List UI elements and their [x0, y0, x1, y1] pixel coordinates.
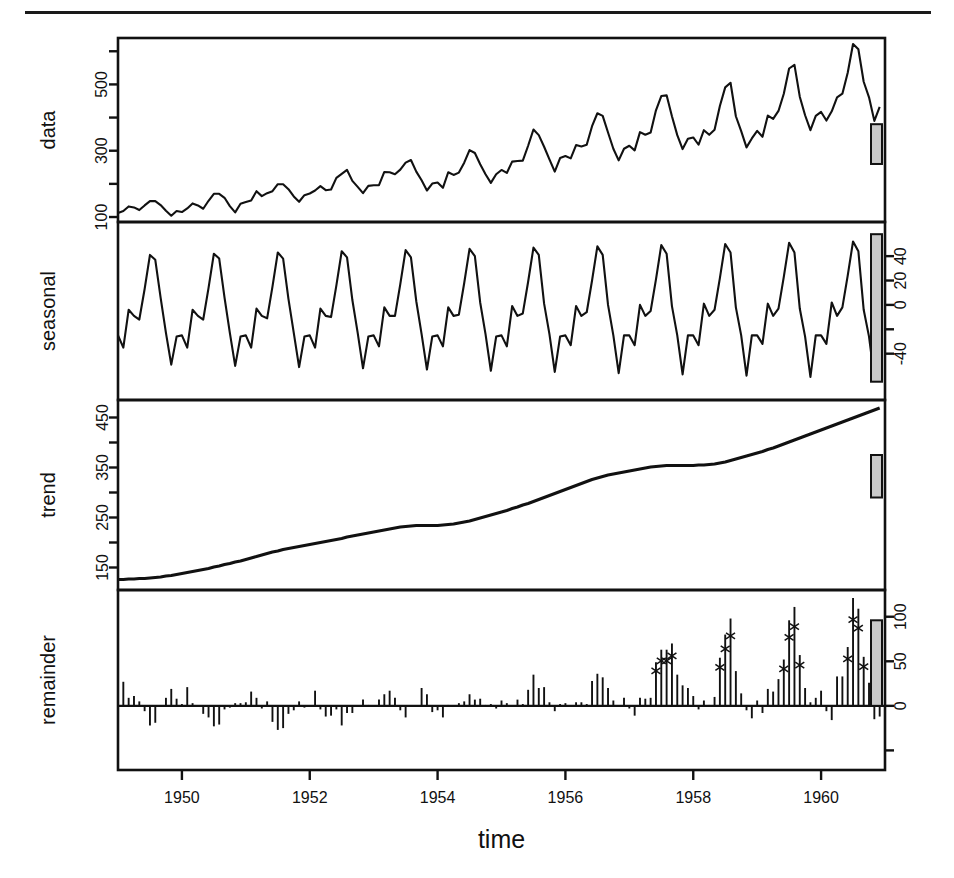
panel-frame-data	[118, 38, 885, 222]
y-tick-label-data-500: 500	[94, 71, 111, 98]
stl-decomposition-plot: 100300500data40200-40seasonal15025035045…	[0, 0, 954, 878]
x-tick-label-1950: 1950	[164, 789, 200, 806]
y-tick-label-seasonal-0: 0	[893, 300, 910, 309]
series-data	[118, 44, 880, 216]
panel-axis-title-remainder: remainder	[37, 635, 59, 725]
scale-bar-seasonal	[871, 234, 882, 382]
line-seasonal	[118, 242, 880, 379]
y-tick-label-trend-450: 450	[94, 404, 111, 431]
y-tick-label-seasonal--40: -40	[893, 342, 910, 365]
scale-bar-trend	[871, 455, 882, 498]
series-remainder	[118, 598, 885, 730]
y-tick-label-remainder-100: 100	[893, 603, 910, 630]
y-tick-label-remainder-50: 50	[893, 652, 910, 670]
y-tick-label-data-300: 300	[94, 137, 111, 164]
scale-bar-remainder	[871, 620, 882, 706]
y-tick-label-trend-150: 150	[94, 554, 111, 581]
y-tick-label-seasonal-40: 40	[893, 247, 910, 265]
x-tick-label-1952: 1952	[292, 789, 328, 806]
y-tick-label-remainder-0: 0	[893, 701, 910, 710]
x-tick-label-1956: 1956	[548, 789, 584, 806]
y-tick-label-seasonal-20: 20	[893, 272, 910, 290]
series-trend	[118, 408, 880, 580]
panel-axis-title-trend: trend	[37, 472, 59, 518]
y-tick-label-data-100: 100	[94, 204, 111, 231]
line-trend	[118, 408, 880, 580]
scale-bar-data	[871, 124, 882, 164]
panel-frame-remainder	[118, 590, 885, 770]
x-tick-label-1954: 1954	[420, 789, 456, 806]
panel-axis-title-data: data	[37, 110, 59, 150]
y-tick-label-trend-250: 250	[94, 504, 111, 531]
panel-axis-title-seasonal: seasonal	[37, 271, 59, 351]
x-tick-label-1958: 1958	[675, 789, 711, 806]
line-data	[118, 44, 880, 216]
figure-root: 100300500data40200-40seasonal15025035045…	[0, 0, 954, 878]
series-seasonal	[118, 242, 880, 379]
y-tick-label-trend-350: 350	[94, 454, 111, 481]
x-tick-label-1960: 1960	[803, 789, 839, 806]
x-axis-title: time	[478, 825, 525, 853]
